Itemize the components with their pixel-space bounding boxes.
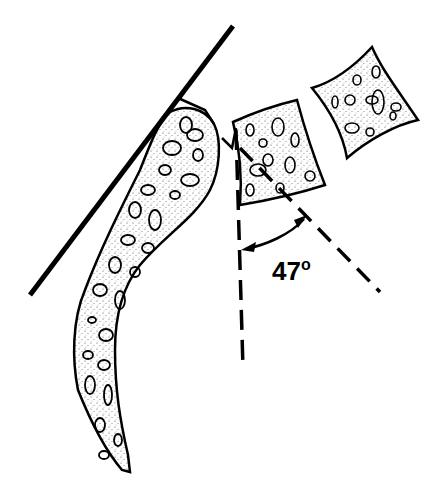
block-2 (312, 47, 418, 158)
curved-structure (74, 108, 219, 472)
angle-arc (241, 215, 307, 252)
angle-label: 47o (272, 256, 311, 287)
diagram-canvas (0, 0, 433, 490)
angle-degree-symbol: o (301, 256, 311, 273)
angle-value: 47 (272, 256, 301, 286)
arrowhead-left-icon (241, 242, 256, 252)
